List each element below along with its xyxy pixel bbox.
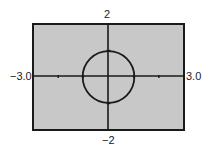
x-max-label: 3.0 [186, 71, 201, 82]
y-min-label: −2 [102, 135, 115, 146]
y-max-label: 2 [104, 9, 110, 20]
x-min-label: −3.0 [10, 71, 32, 82]
